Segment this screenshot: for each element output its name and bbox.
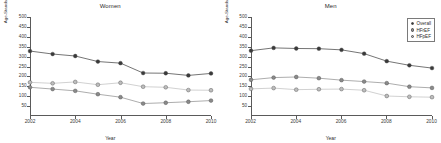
data-point <box>407 63 411 67</box>
y-axis-tick-label: 200 <box>19 74 27 79</box>
legend-item-label: Overall <box>416 21 431 26</box>
series-layer <box>30 17 211 116</box>
chart-panel-women: Women Age-Standardized Rate per 100 000 … <box>0 0 221 143</box>
data-point <box>73 54 77 58</box>
data-point <box>51 81 55 85</box>
legend-item-overall: Overall <box>411 21 431 26</box>
y-axis-tick-label: 50 <box>21 104 26 109</box>
figure-container: Women Age-Standardized Rate per 100 000 … <box>0 0 441 143</box>
legend-item-hfpef: HFpEF <box>411 34 431 39</box>
x-axis-tick-label: 2006 <box>115 120 126 125</box>
series-overall <box>28 49 213 77</box>
data-point <box>28 80 32 84</box>
data-point <box>141 85 145 89</box>
data-point <box>339 87 343 91</box>
y-axis-tick-label: 250 <box>239 64 247 69</box>
y-axis-tick-label: 300 <box>19 54 27 59</box>
series-hfpef <box>28 80 213 92</box>
legend-item-label: HFrEF <box>416 28 430 33</box>
legend-item-label: HFpEF <box>416 34 431 39</box>
y-axis-tick-label: 350 <box>19 44 27 49</box>
data-point <box>384 59 388 63</box>
data-point <box>119 81 123 85</box>
y-axis-tick-label: 100 <box>19 94 27 99</box>
data-point <box>249 78 253 82</box>
data-point <box>362 52 366 56</box>
data-point <box>430 95 434 99</box>
y-axis-tick-label: 500 <box>19 15 27 20</box>
series-hfpef <box>249 86 434 99</box>
data-point <box>186 100 190 104</box>
y-axis-label-women: Age-Standardized Rate per 100 000 <box>1 0 10 36</box>
legend-marker-icon <box>411 28 414 31</box>
data-point <box>294 47 298 51</box>
data-point <box>73 80 77 84</box>
data-point <box>271 86 275 90</box>
legend: OverallHFrEFHFpEF <box>407 18 435 42</box>
y-axis-tick-label: 50 <box>242 104 247 109</box>
legend-marker-icon <box>411 22 414 25</box>
series-overall <box>249 46 434 70</box>
x-axis-tick-label: 2002 <box>25 120 36 125</box>
x-axis-tick-label: 2008 <box>381 120 392 125</box>
data-point <box>384 81 388 85</box>
data-point <box>119 61 123 65</box>
data-point <box>271 46 275 50</box>
data-point <box>164 71 168 75</box>
data-point <box>209 88 213 92</box>
data-point <box>96 92 100 96</box>
legend-item-hfref: HFrEF <box>411 28 431 33</box>
data-point <box>362 80 366 84</box>
data-point <box>362 88 366 92</box>
data-point <box>96 83 100 87</box>
data-point <box>28 49 32 53</box>
data-point <box>28 85 32 89</box>
data-point <box>316 47 320 51</box>
y-axis-tick-label: 150 <box>239 84 247 89</box>
y-axis-tick-label: 500 <box>239 15 247 20</box>
x-axis-tick-label: 2004 <box>70 120 81 125</box>
data-point <box>51 52 55 56</box>
chart-title-men: Men <box>221 3 441 9</box>
data-point <box>209 72 213 76</box>
chart-title-women: Women <box>0 3 221 9</box>
data-point <box>249 49 253 53</box>
data-point <box>407 95 411 99</box>
data-point <box>186 88 190 92</box>
y-axis-tick-label: 450 <box>19 25 27 30</box>
x-axis-tick-label: 2006 <box>336 120 347 125</box>
y-axis-tick-label: 150 <box>19 84 27 89</box>
data-point <box>316 76 320 80</box>
data-point <box>164 101 168 105</box>
data-point <box>73 89 77 93</box>
x-axis-label-men: Year <box>221 135 441 141</box>
data-point <box>271 76 275 80</box>
chart-panel-men: Men Age-Standardized Rate per 100 000 50… <box>221 0 441 143</box>
x-axis-tick-label: 2002 <box>245 120 256 125</box>
data-point <box>186 74 190 78</box>
y-axis-tick-label: 250 <box>19 64 27 69</box>
data-point <box>51 87 55 91</box>
data-point <box>294 75 298 79</box>
data-point <box>96 60 100 64</box>
data-point <box>209 99 213 103</box>
data-point <box>164 85 168 89</box>
x-axis-tick-label: 2010 <box>206 120 217 125</box>
data-point <box>316 87 320 91</box>
series-layer <box>251 17 432 116</box>
y-axis-tick-label: 100 <box>239 94 247 99</box>
x-axis-tick-label: 2008 <box>160 120 171 125</box>
data-point <box>384 94 388 98</box>
data-point <box>141 102 145 106</box>
y-axis-tick-label: 400 <box>239 35 247 40</box>
data-point <box>430 86 434 90</box>
data-point <box>141 71 145 75</box>
data-point <box>119 95 123 99</box>
y-axis-tick-label: 200 <box>239 74 247 79</box>
data-point <box>339 78 343 82</box>
data-point <box>407 85 411 89</box>
data-point <box>294 88 298 92</box>
y-axis-tick-label: 450 <box>239 25 247 30</box>
data-point <box>339 48 343 52</box>
plot-area-men: 5010015020025030035040045050020022004200… <box>251 17 432 116</box>
